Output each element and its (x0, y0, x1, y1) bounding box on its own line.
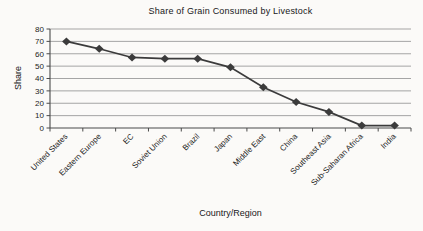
data-point-marker (161, 55, 170, 63)
line-plot-area: 01020304050607080 (0, 0, 423, 231)
data-point-marker (292, 98, 301, 106)
y-tick-label: 60 (35, 50, 44, 59)
data-point-marker (62, 37, 71, 45)
data-point-marker (325, 108, 334, 116)
x-axis-title: Country/Region (50, 208, 411, 218)
y-tick-label: 50 (35, 62, 44, 71)
y-tick-label: 70 (35, 37, 44, 46)
data-point-marker (193, 55, 202, 63)
chart-container: Share of Grain Consumed by Livestock Sha… (0, 0, 423, 231)
data-point-marker (128, 53, 137, 61)
y-tick-label: 30 (35, 87, 44, 96)
y-tick-label: 80 (35, 25, 44, 34)
y-tick-label: 0 (40, 124, 45, 133)
y-tick-label: 40 (35, 74, 44, 83)
y-tick-label: 20 (35, 99, 44, 108)
data-point-marker (95, 45, 104, 53)
y-tick-label: 10 (35, 111, 44, 120)
